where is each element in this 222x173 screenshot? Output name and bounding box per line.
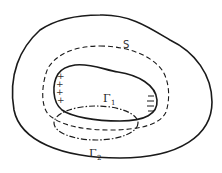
- label-gamma1: Γ 1: [103, 92, 115, 107]
- plus-sign: +: [57, 95, 65, 105]
- positive-charges: + + + +: [56, 71, 65, 105]
- gamma2-loop: [54, 106, 138, 140]
- outer-region-boundary: [12, 15, 212, 158]
- label-gamma2-sub: 2: [97, 154, 101, 162]
- label-gamma1-sub: 1: [111, 99, 115, 107]
- negative-charges: [147, 96, 154, 111]
- label-gamma2-main: Γ: [89, 147, 97, 160]
- label-s: S: [123, 39, 129, 50]
- label-gamma1-main: Γ: [103, 92, 111, 105]
- label-gamma2: Γ 2: [89, 147, 101, 162]
- diagram-canvas: + + + + S Γ 1 Γ 2: [0, 0, 222, 173]
